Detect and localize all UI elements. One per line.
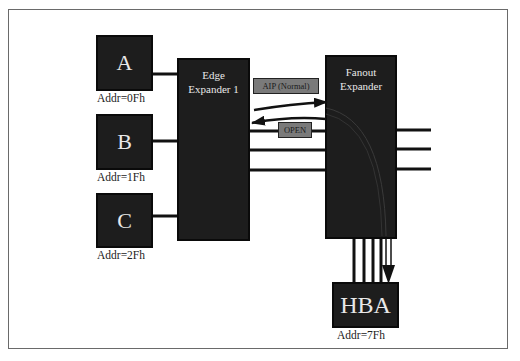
signal-arrows (0, 0, 520, 361)
down-arrow-icon (382, 265, 395, 284)
open-signal-tag: OPEN (278, 122, 312, 138)
route-path-2 (326, 114, 382, 236)
route-path-1 (326, 108, 386, 236)
aip-arrow-icon (254, 102, 327, 110)
aip-signal-tag: AIP (Normal) (253, 78, 319, 94)
